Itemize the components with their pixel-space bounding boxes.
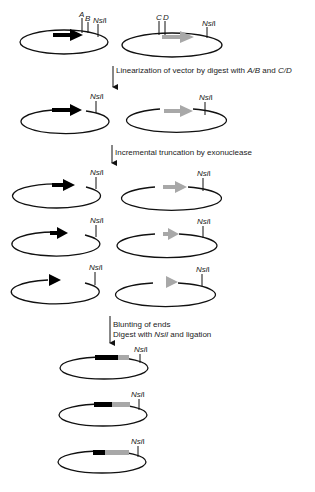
nsii-label: NsiI bbox=[131, 437, 145, 446]
step-truncation-text: Incremental truncation by exonuclease bbox=[115, 148, 253, 157]
plasmid-gene-a-intact: A B NsiI bbox=[20, 10, 108, 54]
plasmid-gene-b-intact: C D NsiI bbox=[122, 13, 222, 57]
nsii-label: NsiI bbox=[134, 345, 148, 354]
gene-b-arrow bbox=[164, 105, 193, 117]
truncated-a-2: NsiI bbox=[12, 216, 104, 256]
site-c-label: C bbox=[156, 13, 162, 22]
step-blunting-text: Blunting of ends bbox=[113, 320, 170, 329]
nsii-label: NsiI bbox=[197, 217, 211, 226]
step-digest-text: Digest with NsiI and ligation bbox=[113, 330, 211, 339]
nsii-label: NsiI bbox=[131, 390, 145, 399]
itchy-diagram: A B NsiI C D NsiI Linearization of vecto… bbox=[0, 0, 315, 492]
site-a-label: A bbox=[78, 10, 84, 19]
truncated-a-1: NsiI bbox=[13, 168, 104, 208]
step-truncation: Incremental truncation by exonuclease bbox=[112, 145, 253, 163]
nsii-label: NsiI bbox=[197, 169, 211, 178]
hybrid-2: NsiI bbox=[59, 390, 147, 426]
nsii-label: NsiI bbox=[93, 16, 107, 25]
truncated-b-3: NsiI bbox=[116, 265, 216, 307]
nsii-label: NsiI bbox=[89, 263, 103, 272]
nsii-label: NsiI bbox=[90, 168, 104, 177]
hybrid-1 bbox=[60, 354, 148, 379]
site-d-label: D bbox=[163, 13, 169, 22]
truncated-b-2: NsiI bbox=[117, 217, 217, 258]
nsii-label: NsiI bbox=[90, 216, 104, 225]
step-linearization-text: Linearization of vector by digest with A… bbox=[116, 66, 292, 75]
hybrid-3: NsiI bbox=[58, 437, 146, 473]
nsii-label: NsiI bbox=[196, 265, 210, 274]
nsii-label: NsiI bbox=[202, 19, 216, 28]
gene-a-arrow bbox=[52, 104, 82, 116]
nsii-label: NsiI bbox=[199, 93, 213, 102]
nsii-label: NsiI bbox=[90, 92, 104, 101]
step-linearization: Linearization of vector by digest with A… bbox=[113, 66, 292, 87]
truncated-a-3: NsiI bbox=[11, 263, 103, 304]
site-b-label: B bbox=[85, 14, 91, 23]
linear-vector-a: NsiI bbox=[21, 89, 139, 134]
linear-vector-b: NsiI bbox=[126, 93, 226, 132]
truncated-b-1: NsiI bbox=[121, 169, 221, 210]
step-blunting-ligation: Blunting of ends Digest with NsiI and li… bbox=[110, 316, 211, 354]
